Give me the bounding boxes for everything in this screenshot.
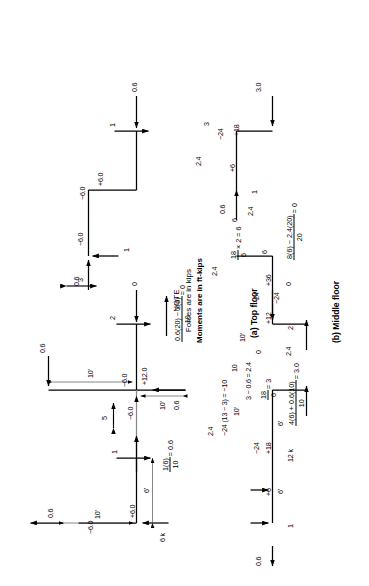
- mf-bay1-moment-center-top: −24: [252, 442, 259, 454]
- tf-bay3-shear-left: 0.6: [72, 277, 79, 286]
- mf-bay2-moment-upper-left: +12: [264, 312, 271, 324]
- tf-bay3-force-down: 1: [108, 123, 115, 127]
- tf-joint1-axial: 5: [100, 416, 107, 420]
- tf-bay2-moment-lower: +12.0: [140, 368, 147, 385]
- tf-bay1-load-base: 6 k: [158, 533, 165, 542]
- mf-bay2-reaction-equation: 8(6) − 2.4(20) 20 = 0: [284, 203, 303, 260]
- mf-bay3-moment-right-top: −24: [216, 128, 223, 140]
- mf-bay3-shear-left: 0.6: [218, 205, 225, 214]
- tf-bay2-moment-upper-left: −6.0: [126, 407, 133, 420]
- tf-bay1-shear-top: 0.6: [46, 509, 53, 518]
- tf-bay2-force-down: 2: [108, 316, 115, 320]
- tf-bay2-moment-upper-right: −6.0: [120, 374, 127, 387]
- tf-bay3-moment-left: −6.0: [76, 233, 83, 246]
- middle-floor-diagram: 0.6 1 +6 12 k +18 −24 6' 6' 10' −24 (13 …: [250, 0, 369, 586]
- mf-bay1-moment-left: +6: [264, 488, 271, 496]
- tf-bay1-moment-left-top: −6.0: [86, 521, 93, 534]
- tf-bay1-dim-span: 6': [142, 488, 149, 493]
- mf-bay1-calc-top: −24 (13 − 3) = −10: [220, 380, 227, 436]
- tf-bay1-force-down: 1: [110, 450, 117, 454]
- tf-bay1-dim-height: 10': [93, 510, 100, 519]
- tf-bay2-shear-left: 0.6: [172, 401, 179, 410]
- tf-bay3-moment-right-top: −6.0: [78, 187, 85, 200]
- mf-bay2-shear-bottom: 2.4: [284, 347, 291, 356]
- mf-bay2-axial-up: 2: [286, 326, 293, 330]
- mf-bay1-shear-left: 0.6: [254, 557, 261, 566]
- mf-joint1-axial: 10: [230, 364, 237, 372]
- mf-bay3-shear-bottom: 2.4: [246, 207, 253, 216]
- tf-bay3-force-left: 0.6: [130, 83, 137, 92]
- mf-bay3-force-left: 3.0: [254, 83, 261, 92]
- mf-bay3-moment-left: +6: [228, 164, 235, 172]
- mf-bay3-moment-right-bottom: +18: [232, 124, 239, 136]
- mf-bay1-axial-up: 1: [286, 524, 293, 528]
- mf-bay1-dim-span-right: 6': [276, 421, 283, 426]
- mf-joint2-axial: 6: [230, 218, 237, 222]
- tf-bay2-dim-height-right: 10': [86, 369, 93, 378]
- tf-bay3-axial-up: 1: [122, 248, 129, 252]
- mf-bay1-moment-center-bottom: +18: [264, 442, 271, 454]
- mf-bay1-dim-height: 10': [232, 407, 239, 416]
- mf-bay3-shear-top: 2.4: [194, 157, 201, 166]
- mf-bay2-shear-top: 2.4: [210, 267, 217, 276]
- tf-bay2-dim-height-left: 10': [158, 401, 165, 410]
- mf-bay1-reaction-equation: 4(6) + 0.6(10) 10 = 3.0: [286, 363, 305, 426]
- mf-bay2-force-down: 6: [260, 250, 267, 254]
- mf-bay2-force-right: 0: [284, 282, 291, 286]
- mf-bay2-moment-upper-right: −24: [252, 292, 259, 304]
- mf-bay2-moment-lower-left: −24: [272, 292, 279, 304]
- mf-bay1-calc-fraction: 18 6 = 3: [258, 379, 277, 400]
- mf-bay2-shear-left: 0: [254, 350, 261, 354]
- tf-bay2-force-right: 0: [130, 282, 137, 286]
- tf-bay1-moment-left-bottom: +6.0: [128, 505, 135, 518]
- mf-bay3-force-down: 3: [202, 122, 209, 126]
- mf-bay1-load-center: 12 k: [286, 449, 293, 462]
- figure-canvas: NOTE Forces are in kips Moments are in f…: [0, 0, 369, 586]
- mf-bay1-calc-mid: 3 − 0.6 = 2.4: [244, 362, 251, 400]
- mf-bay3-axial-up: 1: [250, 190, 257, 194]
- mf-bay2-calc-fraction: 18 6 × 2 = 6: [228, 227, 247, 260]
- tf-bay1-reaction-equation: 1(6) 10 = 0.6: [160, 440, 179, 472]
- mf-bay2-dim-height: 10': [238, 333, 245, 342]
- mf-bay1-shear-top: 2.4: [206, 427, 213, 436]
- mf-bay2-moment-lower-right: +36: [264, 274, 271, 286]
- mf-bay1-dim-span-left: 6': [276, 489, 283, 494]
- tf-bay2-shear-top: 0.6: [38, 344, 45, 353]
- tf-bay3-moment-right-bottom: +6.0: [96, 173, 103, 186]
